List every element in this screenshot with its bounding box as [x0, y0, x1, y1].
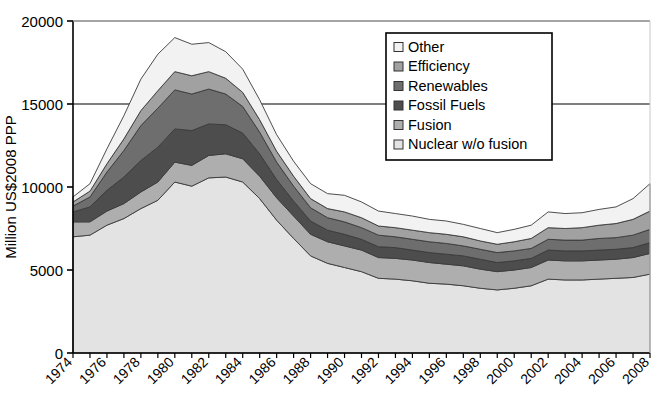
- chart-legend: OtherEfficiencyRenewablesFossil FuelsFus…: [386, 33, 552, 160]
- legend-label: Renewables: [408, 78, 488, 94]
- legend-swatch: [394, 43, 403, 52]
- legend-swatch: [394, 62, 403, 71]
- legend-swatch: [394, 121, 403, 130]
- stacked-area-chart: 05000100001500020000 1974197619781980198…: [0, 0, 657, 404]
- legend-swatch: [394, 82, 403, 91]
- y-tick-label: 10000: [21, 179, 63, 196]
- y-axis-title: Million US$2008 PPP: [2, 115, 19, 258]
- legend-label: Efficiency: [408, 58, 471, 74]
- legend-label: Nuclear w/o fusion: [408, 136, 527, 152]
- chart-canvas: 05000100001500020000 1974197619781980198…: [0, 0, 657, 404]
- y-tick-label: 20000: [21, 13, 63, 30]
- y-tick-label: 15000: [21, 96, 63, 113]
- legend-label: Fossil Fuels: [408, 97, 485, 113]
- y-tick-label: 5000: [30, 262, 63, 279]
- legend-label: Other: [408, 39, 444, 55]
- legend-swatch: [394, 101, 403, 110]
- legend-label: Fusion: [408, 117, 452, 133]
- legend-swatch: [394, 140, 403, 149]
- y-axis-label: Million US$2008 PPP: [2, 115, 19, 258]
